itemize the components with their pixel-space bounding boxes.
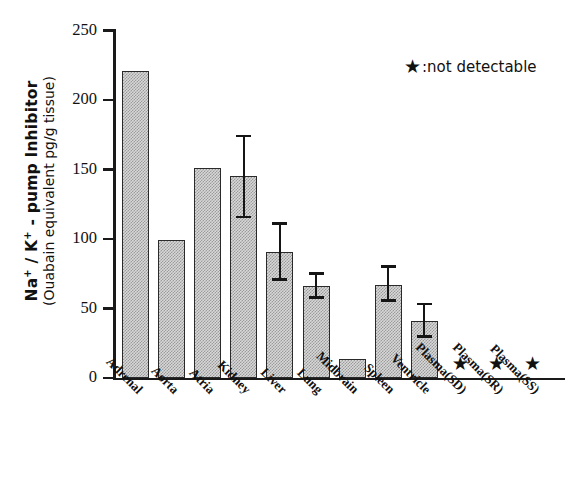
error-bar-stem	[243, 135, 245, 218]
y-axis-title-line1: Na+ / K+ - pump Inhibitor	[23, 81, 41, 302]
error-bar-stem	[387, 265, 389, 301]
error-bar-cap-upper	[417, 303, 432, 305]
y-axis-tick-label: 50	[0, 298, 97, 318]
error-bar	[230, 135, 257, 218]
y-axis-tick-label: 150	[0, 159, 97, 179]
error-bar-stem	[315, 272, 317, 298]
error-bar-stem	[423, 303, 425, 338]
y-axis-tick	[103, 29, 113, 32]
error-bar-cap-lower	[272, 278, 287, 280]
legend-label: not detectable	[427, 58, 536, 76]
error-bar	[411, 303, 438, 338]
bar	[158, 240, 185, 378]
y-axis-line	[113, 29, 116, 380]
y-axis-tick	[103, 377, 113, 380]
star-icon: ★	[404, 57, 421, 76]
y-axis-title-line2: (Ouabain equivalent pg/g tissue)	[42, 76, 57, 306]
error-bar	[303, 272, 330, 298]
error-bar-cap-upper	[236, 135, 251, 137]
y-axis-tick-label: 100	[0, 228, 97, 248]
bar	[122, 71, 149, 378]
bar	[194, 168, 221, 378]
y-axis-tick-label: 0	[0, 367, 97, 387]
error-bar	[266, 222, 293, 280]
error-bar-stem	[279, 222, 281, 280]
y-axis-tick	[103, 99, 113, 102]
y-axis-tick	[103, 168, 113, 171]
error-bar-cap-lower	[381, 299, 396, 301]
error-bar-cap-upper	[272, 222, 287, 224]
error-bar	[375, 265, 402, 301]
y-axis-tick	[103, 238, 113, 241]
error-bar-cap-upper	[309, 272, 324, 274]
y-axis-tick-label: 200	[0, 89, 97, 109]
error-bar-cap-lower	[236, 216, 251, 218]
legend: ★ : not detectable	[404, 57, 537, 76]
error-bar-cap-lower	[417, 335, 432, 337]
error-bar-cap-upper	[381, 265, 396, 267]
y-axis-tick	[103, 307, 113, 310]
y-axis-tick-label: 250	[0, 20, 97, 40]
chart-figure: Na+ / K+ - pump Inhibitor (Ouabain equiv…	[0, 0, 583, 484]
error-bar-cap-lower	[309, 296, 324, 298]
